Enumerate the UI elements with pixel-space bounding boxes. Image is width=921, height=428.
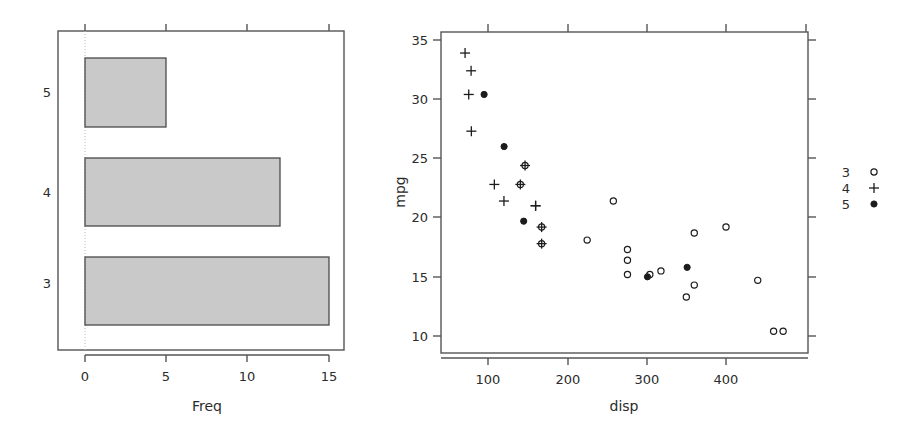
data-point-open-circle bbox=[755, 277, 761, 283]
data-point-filled-circle bbox=[684, 264, 690, 270]
data-point-open-circle bbox=[691, 230, 697, 236]
data-point-open-circle bbox=[610, 198, 616, 204]
bar-panel: 5 4 3 0 5 10 15 Freq bbox=[43, 24, 344, 414]
scatter-x-axis: 100 200 300 400 bbox=[441, 24, 808, 387]
data-point-plus bbox=[537, 222, 547, 232]
scatter-plot-box bbox=[441, 32, 808, 353]
legend-marker-plus-icon bbox=[869, 183, 879, 193]
data-point-filled-circle bbox=[481, 91, 487, 97]
legend: 3 4 5 bbox=[842, 165, 879, 212]
data-point-open-circle bbox=[658, 268, 664, 274]
data-point-plus bbox=[460, 48, 470, 58]
scatter-y-tick-label-30: 30 bbox=[411, 92, 428, 107]
bar-gear-5 bbox=[85, 58, 166, 127]
data-point-open-circle bbox=[624, 257, 630, 263]
data-point-filled-circle bbox=[501, 143, 507, 149]
scatter-point-layer bbox=[460, 48, 786, 334]
data-point-open-circle bbox=[771, 328, 777, 334]
data-point-open-circle bbox=[624, 246, 630, 252]
scatter-series-3 bbox=[517, 162, 786, 334]
data-point-plus bbox=[515, 179, 525, 189]
legend-label-4: 4 bbox=[842, 181, 850, 196]
bar-x-axis-title: Freq bbox=[192, 398, 222, 414]
scatter-series-5 bbox=[481, 91, 690, 280]
data-point-plus bbox=[499, 196, 509, 206]
bar-x-tick-label-0: 0 bbox=[81, 369, 89, 384]
legend-marker-open-circle-icon bbox=[871, 169, 877, 175]
scatter-y-tick-label-20: 20 bbox=[411, 210, 428, 225]
bar-series bbox=[85, 58, 329, 325]
figure-canvas: 5 4 3 0 5 10 15 Freq bbox=[0, 0, 921, 428]
bar-category-label-3: 3 bbox=[43, 276, 51, 291]
legend-label-3: 3 bbox=[842, 165, 850, 180]
scatter-panel: 35 30 25 20 15 10 bbox=[392, 24, 816, 414]
scatter-y-tick-label-10: 10 bbox=[411, 329, 428, 344]
scatter-x-tick-label-200: 200 bbox=[556, 372, 581, 387]
scatter-x-tick-label-300: 300 bbox=[635, 372, 660, 387]
bar-gear-4 bbox=[85, 158, 280, 226]
scatter-y-tick-label-15: 15 bbox=[411, 270, 428, 285]
data-point-plus bbox=[466, 66, 476, 76]
figure-root: 5 4 3 0 5 10 15 Freq bbox=[0, 0, 921, 428]
scatter-x-axis-title: disp bbox=[610, 398, 639, 414]
data-point-plus bbox=[466, 126, 476, 136]
scatter-y-axis: 35 30 25 20 15 10 bbox=[411, 33, 441, 344]
scatter-y-tick-label-35: 35 bbox=[411, 33, 428, 48]
data-point-plus bbox=[537, 239, 547, 249]
bar-category-label-5: 5 bbox=[43, 85, 51, 100]
scatter-y-tick-label-25: 25 bbox=[411, 151, 428, 166]
bar-category-label-4: 4 bbox=[43, 185, 51, 200]
scatter-right-axis bbox=[808, 40, 816, 336]
data-point-open-circle bbox=[683, 294, 689, 300]
data-point-open-circle bbox=[780, 328, 786, 334]
data-point-open-circle bbox=[624, 271, 630, 277]
data-point-plus bbox=[520, 161, 530, 171]
scatter-x-tick-label-100: 100 bbox=[476, 372, 501, 387]
data-point-open-circle bbox=[584, 237, 590, 243]
data-point-filled-circle bbox=[644, 274, 650, 280]
legend-label-5: 5 bbox=[842, 197, 850, 212]
scatter-x-tick-label-400: 400 bbox=[714, 372, 739, 387]
bar-x-tick-label-15: 15 bbox=[321, 369, 338, 384]
data-point-open-circle bbox=[723, 224, 729, 230]
data-point-plus bbox=[489, 179, 499, 189]
data-point-plus bbox=[464, 89, 474, 99]
bar-x-tick-label-5: 5 bbox=[162, 369, 170, 384]
data-point-open-circle bbox=[691, 282, 697, 288]
bar-x-tick-label-10: 10 bbox=[239, 369, 256, 384]
data-point-plus bbox=[531, 201, 541, 211]
legend-marker-filled-circle-icon bbox=[871, 201, 877, 207]
bar-gear-3 bbox=[85, 257, 329, 325]
data-point-filled-circle bbox=[521, 218, 527, 224]
scatter-y-axis-title: mpg bbox=[392, 176, 408, 207]
